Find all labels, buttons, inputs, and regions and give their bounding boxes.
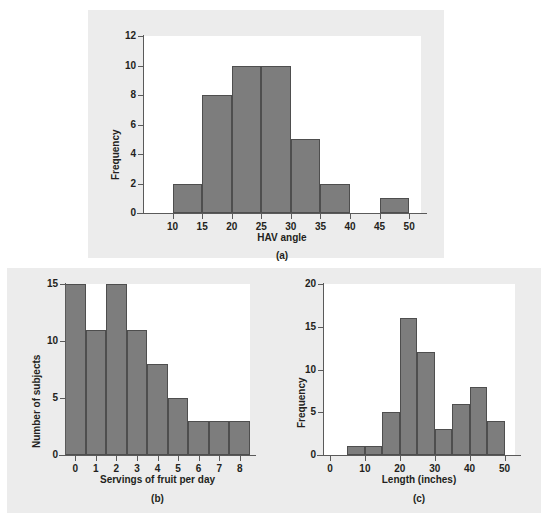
x-axis-tick-label: 35 — [306, 221, 334, 232]
y-axis-tick — [138, 95, 143, 96]
bar — [188, 421, 209, 455]
y-axis-tick-label: 12 — [109, 30, 136, 41]
y-axis-title: Number of subjects — [31, 355, 42, 448]
x-axis-tick — [261, 214, 262, 219]
bar — [127, 330, 148, 455]
x-axis-tick-label: 30 — [277, 221, 305, 232]
x-axis-tick-label: 50 — [395, 221, 423, 232]
x-axis-tick — [75, 456, 76, 461]
x-axis-tick — [330, 456, 331, 461]
y-axis-tick — [138, 213, 143, 214]
x-axis-tick — [505, 456, 506, 461]
y-axis-tick — [318, 370, 323, 371]
x-axis-tick — [365, 456, 366, 461]
x-axis-tick — [178, 456, 179, 461]
y-axis-tick-label: 10 — [31, 335, 58, 346]
x-axis-title: Length (inches) — [323, 474, 515, 485]
x-axis-tick — [158, 456, 159, 461]
bar — [229, 421, 250, 455]
y-axis-tick — [318, 455, 323, 456]
x-axis-tick-label: 10 — [351, 463, 379, 474]
x-axis-tick — [137, 456, 138, 461]
bar — [470, 387, 487, 455]
y-axis-tick-label: 0 — [109, 207, 136, 218]
x-axis-tick-label: 50 — [491, 463, 519, 474]
x-axis-tick — [435, 456, 436, 461]
x-axis-tick — [199, 456, 200, 461]
x-axis-tick — [320, 214, 321, 219]
x-axis-tick — [240, 456, 241, 461]
x-axis-tick-label: 10 — [159, 221, 187, 232]
bar — [417, 352, 434, 455]
bar — [168, 398, 189, 455]
y-axis-tick — [318, 284, 323, 285]
x-axis-tick — [116, 456, 117, 461]
x-axis-tick-label: 20 — [386, 463, 414, 474]
bar — [232, 66, 262, 214]
x-axis-tick — [470, 456, 471, 461]
y-axis-tick-label: 20 — [289, 278, 316, 289]
y-axis-line — [323, 283, 324, 455]
y-axis-tick — [138, 154, 143, 155]
bar — [487, 421, 504, 455]
histogram-c: 0510152001020304050Length (inches)Freque… — [274, 268, 541, 513]
bar — [365, 446, 382, 455]
y-axis-tick-label: 10 — [289, 364, 316, 375]
bar — [452, 404, 469, 455]
x-axis-tick — [380, 214, 381, 219]
x-axis-line — [317, 455, 521, 456]
x-axis-tick-label: 8 — [226, 463, 254, 474]
x-axis-tick — [219, 456, 220, 461]
x-axis-title: Servings of fruit per day — [65, 474, 250, 485]
bar — [435, 429, 452, 455]
y-axis-title: Frequency — [110, 129, 121, 180]
y-axis-tick — [318, 327, 323, 328]
y-axis-tick — [138, 36, 143, 37]
x-axis-tick — [400, 456, 401, 461]
panel-caption: (a) — [143, 250, 421, 261]
y-axis-tick — [138, 184, 143, 185]
bar — [291, 139, 321, 213]
x-axis-tick — [291, 214, 292, 219]
x-axis-tick-label: 25 — [247, 221, 275, 232]
x-axis-tick-label: 45 — [366, 221, 394, 232]
bar — [86, 330, 107, 455]
x-axis-tick — [409, 214, 410, 219]
bar — [400, 318, 417, 455]
y-axis-tick-label: 15 — [289, 321, 316, 332]
y-axis-tick — [60, 455, 65, 456]
bar — [147, 364, 168, 455]
x-axis-line — [137, 213, 427, 214]
histogram-a: 024681012101520253035404550HAV angleFreq… — [88, 10, 444, 258]
x-axis-tick — [96, 456, 97, 461]
x-axis-tick — [173, 214, 174, 219]
y-axis-tick — [318, 412, 323, 413]
bar — [261, 66, 291, 214]
bar — [380, 198, 410, 213]
panel-caption: (c) — [323, 493, 515, 504]
y-axis-tick-label: 8 — [109, 89, 136, 100]
y-axis-line — [65, 283, 66, 455]
histogram-b: 051015012345678Servings of fruit per day… — [7, 268, 274, 513]
x-axis-tick-label: 15 — [188, 221, 216, 232]
bar — [65, 284, 86, 455]
y-axis-tick-label: 0 — [31, 449, 58, 460]
x-axis-tick-label: 40 — [336, 221, 364, 232]
y-axis-tick — [138, 66, 143, 67]
y-axis-tick-label: 6 — [109, 119, 136, 130]
y-axis-tick — [138, 125, 143, 126]
bar — [382, 412, 399, 455]
y-axis-tick-label: 10 — [109, 60, 136, 71]
y-axis-tick — [60, 341, 65, 342]
x-axis-tick-label: 40 — [456, 463, 484, 474]
bar — [202, 95, 232, 213]
y-axis-tick — [60, 284, 65, 285]
bar — [320, 184, 350, 214]
x-axis-tick — [350, 214, 351, 219]
x-axis-tick — [202, 214, 203, 219]
bar — [106, 284, 127, 455]
y-axis-title: Frequency — [296, 377, 307, 428]
y-axis-tick-label: 0 — [289, 449, 316, 460]
y-axis-tick — [60, 398, 65, 399]
x-axis-tick-label: 0 — [316, 463, 344, 474]
